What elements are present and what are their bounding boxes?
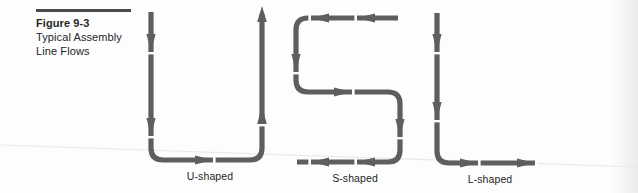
l-break-1 (434, 52, 440, 54)
s-shaped-flow (291, 13, 404, 166)
s-arrow-left-1-icon (311, 13, 329, 22)
s-arrow-left-4-icon (357, 157, 375, 166)
u-arrow-right-icon (195, 155, 213, 164)
l-break-3 (478, 160, 481, 166)
s-arrow-left-3-icon (311, 157, 329, 166)
l-arrow-down-2-icon (432, 102, 441, 120)
assembly-line-flow-diagrams (0, 0, 638, 193)
l-arrow-right-1-icon (460, 158, 478, 167)
u-break-2 (148, 52, 155, 54)
s-arrow-right-icon (334, 87, 352, 96)
s-break-7 (354, 159, 357, 165)
s-shaped-path (296, 18, 400, 162)
s-break-3 (293, 72, 299, 74)
s-break-2 (354, 15, 357, 21)
l-break-4 (535, 160, 538, 166)
l-shaped-path (437, 13, 535, 163)
u-arrow-down-1-icon (146, 34, 155, 52)
s-break-5 (397, 137, 403, 139)
s-shaped-label: S-shaped (305, 172, 405, 184)
s-arrow-down-2-icon (395, 119, 404, 137)
l-break-2 (434, 120, 440, 122)
u-arrow-up-icon (257, 106, 267, 124)
l-shaped-flow (432, 13, 537, 168)
l-arrow-right-2-icon (517, 158, 535, 167)
s-break-6 (308, 159, 311, 165)
u-shaped-label: U-shaped (160, 170, 260, 182)
s-arrow-left-2-icon (357, 13, 375, 22)
l-arrow-down-1-icon (432, 34, 441, 52)
u-shaped-path (151, 12, 262, 160)
u-break-3 (148, 136, 155, 138)
s-arrow-down-1-icon (291, 54, 300, 72)
l-shaped-label: L-shaped (440, 173, 540, 185)
s-break-1 (308, 15, 311, 21)
u-shaped-flow (146, 6, 266, 165)
figure-panel: Figure 9-3 Typical Assembly Line Flows (0, 0, 638, 193)
u-break-4 (213, 157, 216, 163)
u-arrow-terminal-up-icon (257, 6, 267, 22)
u-arrow-down-2-icon (146, 118, 155, 136)
u-break-5 (259, 124, 265, 126)
s-break-4 (352, 89, 355, 95)
